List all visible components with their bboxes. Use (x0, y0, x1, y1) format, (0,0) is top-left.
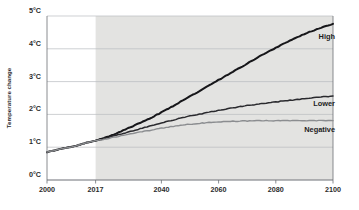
y-axis-tick-labels: 0°C1°C2°C3°C4°C5°C (29, 6, 41, 179)
chart-canvas: 0°C1°C2°C3°C4°C5°C 200020172040206020802… (0, 0, 359, 210)
x-tick-label-2040: 2040 (153, 185, 169, 194)
temperature-change-chart: 0°C1°C2°C3°C4°C5°C 200020172040206020802… (0, 0, 359, 210)
y-tick-label-2: 2°C (29, 104, 41, 113)
x-tick-label-2080: 2080 (268, 185, 284, 194)
y-axis-title: Temperature change (5, 67, 12, 128)
y-tick-label-1: 1°C (29, 137, 41, 146)
series-label-lower: Lower (313, 99, 335, 108)
x-tick-label-2100: 2100 (325, 185, 341, 194)
y-tick-label-5: 5°C (29, 6, 41, 15)
series-label-negative: Negative (304, 125, 335, 134)
y-tick-label-0: 0°C (29, 170, 41, 179)
y-tick-label-3: 3°C (29, 72, 41, 81)
projection-shaded-region (96, 16, 333, 180)
x-axis-ticks: 200020172040206020802100 (39, 180, 341, 194)
y-tick-label-4: 4°C (29, 39, 41, 48)
x-tick-label-2017: 2017 (88, 185, 104, 194)
x-tick-label-2060: 2060 (211, 185, 227, 194)
x-tick-label-2000: 2000 (39, 185, 55, 194)
series-label-high: High (319, 32, 336, 41)
